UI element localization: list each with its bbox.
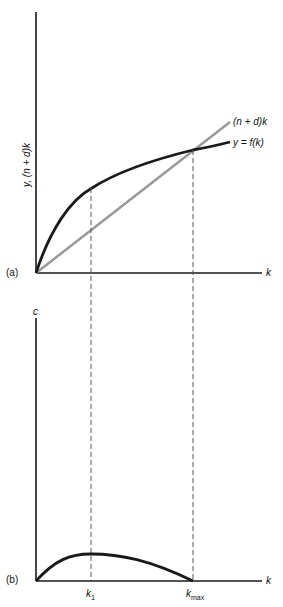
kmax-tick-label: kmax [186,588,205,601]
consumption-curve [36,554,193,581]
panel-b-label: (b) [6,574,18,585]
solow-diagram: (a) k y, (n + d)k (n + d)k y = f(k) (b) … [0,0,283,607]
k1-tick-label: k1 [86,588,95,601]
production-curve [36,142,230,273]
investment-line-label: (n + d)k [233,116,268,127]
panel-b-y-label: c [33,306,38,317]
panel-b-x-label: k [266,575,272,586]
investment-line [36,122,230,273]
panel-a-x-label: k [266,267,272,278]
production-curve-label: y = f(k) [232,137,264,148]
panel-a-label: (a) [6,267,18,278]
panel-a-y-label: y, (n + d)k [21,142,32,188]
